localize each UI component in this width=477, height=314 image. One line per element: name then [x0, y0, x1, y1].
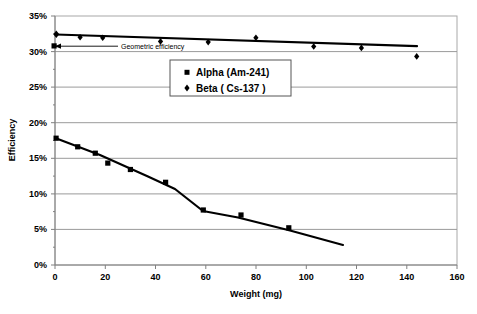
data-point-alpha	[163, 180, 168, 185]
chart-legend[interactable]: Alpha (Am-241) Beta ( Cs-137 )	[170, 60, 291, 96]
x-tick-label-140: 140	[399, 272, 414, 282]
data-point-alpha	[128, 167, 133, 172]
x-axis-title: Weight (mg)	[230, 289, 282, 299]
x-tick-label-40: 40	[150, 272, 160, 282]
efficiency-vs-weight-chart: 35% 30% 25% 20% 15% 10% 5% 0% 0 20 40 60…	[0, 0, 477, 314]
y-tick-label-30: 30%	[29, 47, 47, 57]
y-tick-label-25: 25%	[29, 82, 47, 92]
y-tick-label-15: 15%	[29, 153, 47, 163]
y-tick-label-5: 5%	[34, 224, 47, 234]
x-tick-label-60: 60	[201, 272, 211, 282]
annotation-target-marker	[52, 43, 57, 48]
legend-marker-square-icon	[185, 70, 190, 75]
data-point-alpha	[286, 225, 291, 230]
chart-container: 35% 30% 25% 20% 15% 10% 5% 0% 0 20 40 60…	[0, 0, 477, 314]
legend-label-beta: Beta ( Cs-137 )	[196, 83, 265, 94]
y-tick-label-35: 35%	[29, 11, 47, 21]
y-tick-label-20: 20%	[29, 118, 47, 128]
chart-background	[0, 0, 477, 314]
x-tick-label-100: 100	[299, 272, 314, 282]
annotation-text: Geometric efficiency	[121, 43, 185, 51]
data-point-alpha	[93, 151, 98, 156]
y-tick-label-10: 10%	[29, 189, 47, 199]
x-tick-label-20: 20	[100, 272, 110, 282]
x-tick-label-120: 120	[349, 272, 364, 282]
data-point-alpha	[238, 212, 243, 217]
data-point-alpha	[105, 161, 110, 166]
data-point-alpha	[75, 144, 80, 149]
legend-label-alpha: Alpha (Am-241)	[196, 67, 269, 78]
y-tick-label-0: 0%	[34, 260, 47, 270]
data-point-alpha	[54, 136, 59, 141]
x-tick-label-80: 80	[251, 272, 261, 282]
x-tick-label-0: 0	[52, 272, 57, 282]
x-tick-label-160: 160	[449, 272, 464, 282]
data-point-alpha	[201, 207, 206, 212]
y-axis-title: Efficiency	[7, 119, 17, 162]
